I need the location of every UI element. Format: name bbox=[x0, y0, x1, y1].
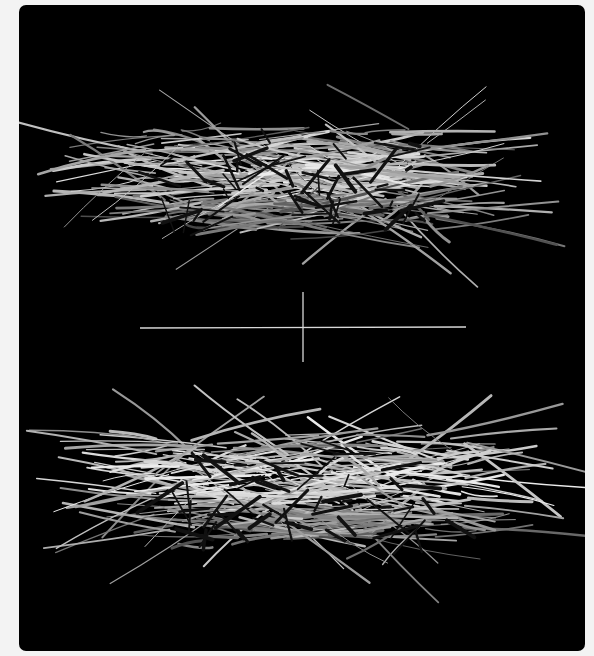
crosshair bbox=[140, 292, 466, 362]
lower-nest bbox=[27, 386, 585, 603]
nests-illustration bbox=[19, 5, 585, 651]
photo-panel bbox=[19, 5, 585, 651]
upper-nest bbox=[19, 85, 564, 287]
